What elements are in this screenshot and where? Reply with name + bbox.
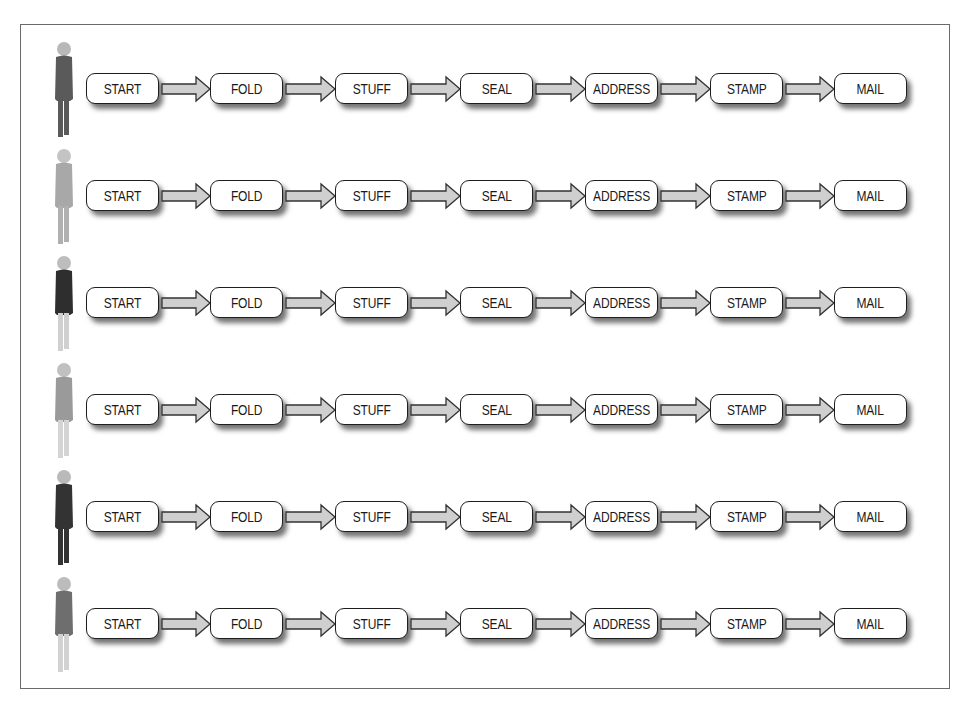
step-box-stamp: STAMP: [710, 394, 783, 425]
step-box-address: ADDRESS: [585, 394, 658, 425]
arrow-right-icon: [785, 609, 835, 639]
step-label: STAMP: [727, 401, 767, 418]
arrow-right-icon: [535, 395, 586, 425]
step-label: MAIL: [857, 508, 884, 525]
step-label: FOLD: [231, 508, 262, 525]
step-label: STUFF: [353, 401, 391, 418]
arrow-right-icon: [410, 395, 461, 425]
step-label: START: [104, 615, 141, 632]
step-label: STAMP: [727, 508, 767, 525]
step-box-fold: FOLD: [210, 180, 283, 211]
step-box-start: START: [86, 287, 159, 318]
arrow-right-icon: [660, 395, 711, 425]
arrow-right-icon: [285, 288, 336, 318]
step-box-stamp: STAMP: [710, 501, 783, 532]
arrow-right-icon: [410, 288, 461, 318]
arrow-right-icon: [161, 609, 211, 639]
step-label: FOLD: [231, 615, 262, 632]
step-box-stuff: STUFF: [335, 501, 408, 532]
step-box-start: START: [86, 501, 159, 532]
step-label: ADDRESS: [593, 187, 650, 204]
person-icon: [52, 148, 78, 248]
arrow-right-icon: [660, 288, 711, 318]
step-label: SEAL: [481, 615, 511, 632]
arrow-right-icon: [535, 609, 586, 639]
arrow-right-icon: [785, 395, 835, 425]
diagram-frame: [20, 24, 950, 689]
step-label: START: [104, 508, 141, 525]
step-box-stuff: STUFF: [335, 287, 408, 318]
step-box-fold: FOLD: [210, 608, 283, 639]
step-label: STUFF: [353, 615, 391, 632]
step-label: SEAL: [481, 294, 511, 311]
arrow-right-icon: [660, 502, 711, 532]
step-box-mail: MAIL: [834, 180, 907, 211]
step-label: STUFF: [353, 508, 391, 525]
arrow-right-icon: [660, 609, 711, 639]
arrow-right-icon: [785, 288, 835, 318]
step-label: MAIL: [857, 615, 884, 632]
step-label: FOLD: [231, 294, 262, 311]
step-label: FOLD: [231, 401, 262, 418]
step-box-mail: MAIL: [834, 501, 907, 532]
arrow-right-icon: [285, 395, 336, 425]
step-box-start: START: [86, 608, 159, 639]
arrow-right-icon: [161, 395, 211, 425]
step-label: START: [104, 294, 141, 311]
step-box-stuff: STUFF: [335, 394, 408, 425]
step-box-seal: SEAL: [460, 608, 533, 639]
arrow-right-icon: [410, 502, 461, 532]
step-box-stuff: STUFF: [335, 180, 408, 211]
process-row: STARTFOLDSTUFFSEALADDRESSSTAMPMAIL: [0, 0, 975, 100]
step-box-address: ADDRESS: [585, 287, 658, 318]
step-box-address: ADDRESS: [585, 608, 658, 639]
step-label: START: [104, 401, 141, 418]
step-box-start: START: [86, 180, 159, 211]
arrow-right-icon: [785, 181, 835, 211]
step-box-seal: SEAL: [460, 180, 533, 211]
arrow-right-icon: [410, 181, 461, 211]
step-label: MAIL: [857, 401, 884, 418]
step-box-mail: MAIL: [834, 608, 907, 639]
step-label: ADDRESS: [593, 401, 650, 418]
step-box-mail: MAIL: [834, 287, 907, 318]
step-box-address: ADDRESS: [585, 501, 658, 532]
arrow-right-icon: [161, 288, 211, 318]
arrow-right-icon: [410, 609, 461, 639]
step-box-fold: FOLD: [210, 394, 283, 425]
person-icon: [52, 576, 78, 676]
step-label: MAIL: [857, 294, 884, 311]
step-label: STAMP: [727, 294, 767, 311]
step-label: SEAL: [481, 401, 511, 418]
step-box-stamp: STAMP: [710, 287, 783, 318]
step-label: START: [104, 187, 141, 204]
step-box-fold: FOLD: [210, 287, 283, 318]
step-box-seal: SEAL: [460, 287, 533, 318]
arrow-right-icon: [535, 502, 586, 532]
person-icon: [52, 469, 78, 569]
arrow-right-icon: [285, 502, 336, 532]
step-box-seal: SEAL: [460, 501, 533, 532]
step-box-mail: MAIL: [834, 394, 907, 425]
step-label: FOLD: [231, 187, 262, 204]
step-box-start: START: [86, 394, 159, 425]
arrow-right-icon: [785, 502, 835, 532]
step-label: STUFF: [353, 187, 391, 204]
person-icon: [52, 362, 78, 462]
step-label: STUFF: [353, 294, 391, 311]
arrow-right-icon: [161, 181, 211, 211]
step-box-address: ADDRESS: [585, 180, 658, 211]
step-label: ADDRESS: [593, 294, 650, 311]
step-box-stuff: STUFF: [335, 608, 408, 639]
arrow-right-icon: [660, 181, 711, 211]
step-label: MAIL: [857, 187, 884, 204]
step-label: ADDRESS: [593, 615, 650, 632]
step-label: ADDRESS: [593, 508, 650, 525]
arrow-right-icon: [535, 181, 586, 211]
arrow-right-icon: [535, 288, 586, 318]
step-box-stamp: STAMP: [710, 608, 783, 639]
step-box-seal: SEAL: [460, 394, 533, 425]
person-icon: [52, 255, 78, 355]
step-box-stamp: STAMP: [710, 180, 783, 211]
step-box-fold: FOLD: [210, 501, 283, 532]
